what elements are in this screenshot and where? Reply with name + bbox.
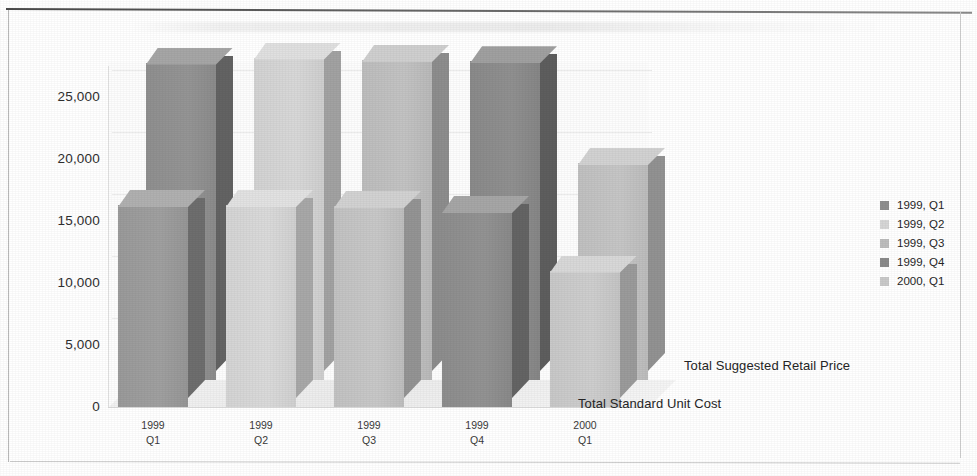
bar-front-1999-q2 xyxy=(226,205,296,407)
y-axis-tick-label: 15,000 xyxy=(14,213,100,228)
y-axis-tick-label: 10,000 xyxy=(14,275,100,290)
x-axis-label-year: 2000 xyxy=(573,419,596,431)
legend-swatch-icon xyxy=(880,201,889,210)
bar-front-face xyxy=(226,205,296,407)
legend-swatch-icon xyxy=(880,220,889,229)
chart-plot-area xyxy=(0,0,977,476)
x-axis-label-year: 1999 xyxy=(249,419,272,431)
chart-screenshot: 05,00010,00015,00020,00025,000 1999Q1199… xyxy=(0,0,977,476)
x-axis-category-labels: 1999Q11999Q21999Q31999Q42000Q1 xyxy=(0,418,977,464)
legend-item[interactable]: 1999, Q3 xyxy=(880,234,976,252)
bar-front-face xyxy=(442,211,512,407)
legend-item-label: 1999, Q2 xyxy=(897,218,944,230)
bar-side-face xyxy=(188,198,205,398)
legend-item-label: 1999, Q1 xyxy=(897,199,944,211)
y-axis-tick-label: 20,000 xyxy=(14,151,100,166)
bar-front-1999-q4 xyxy=(442,211,512,407)
x-axis-label-year: 1999 xyxy=(357,419,380,431)
x-axis-line xyxy=(108,407,653,408)
x-axis-label-quarter: Q1 xyxy=(540,433,630,448)
x-axis-label-quarter: Q2 xyxy=(216,433,306,448)
y-axis-tick-label: 0 xyxy=(14,399,100,414)
y-axis-tick-label: 5,000 xyxy=(14,337,100,352)
legend-item-label: 1999, Q4 xyxy=(897,256,944,268)
bar-front-face xyxy=(334,206,404,407)
x-axis-label-year: 1999 xyxy=(141,419,164,431)
bar-front-face xyxy=(118,205,188,407)
legend-swatch-icon xyxy=(880,239,889,248)
legend-swatch-icon xyxy=(880,277,889,286)
bar-side-face xyxy=(648,156,665,371)
x-axis-label-year: 1999 xyxy=(465,419,488,431)
bar-side-face xyxy=(404,199,421,398)
bar-side-face xyxy=(620,264,637,398)
x-axis-category-label: 1999Q3 xyxy=(324,418,414,448)
x-axis-category-label: 2000Q1 xyxy=(540,418,630,448)
x-axis-category-label: 1999Q4 xyxy=(432,418,522,448)
bar-front-face xyxy=(550,271,620,407)
x-axis-label-quarter: Q3 xyxy=(324,433,414,448)
bar-front-1999-q1 xyxy=(118,205,188,407)
x-axis-label-quarter: Q4 xyxy=(432,433,522,448)
bar-side-face xyxy=(296,198,313,398)
legend-item[interactable]: 1999, Q4 xyxy=(880,253,976,271)
zaxis-label-total-suggested-retail-price: Total Suggested Retail Price xyxy=(684,358,850,373)
chart-legend: 1999, Q11999, Q21999, Q31999, Q42000, Q1 xyxy=(880,196,976,291)
x-axis-category-label: 1999Q1 xyxy=(108,418,198,448)
x-axis-label-quarter: Q1 xyxy=(108,433,198,448)
bar-side-face xyxy=(512,204,529,398)
y-axis-tick-label: 25,000 xyxy=(14,89,100,104)
legend-item[interactable]: 1999, Q2 xyxy=(880,215,976,233)
legend-swatch-icon xyxy=(880,258,889,267)
legend-item-label: 2000, Q1 xyxy=(897,275,944,287)
legend-item-label: 1999, Q3 xyxy=(897,237,944,249)
legend-item[interactable]: 2000, Q1 xyxy=(880,272,976,290)
x-axis-category-label: 1999Q2 xyxy=(216,418,306,448)
y-axis-tick-labels: 05,00010,00015,00020,00025,000 xyxy=(14,0,100,476)
zaxis-label-total-standard-unit-cost: Total Standard Unit Cost xyxy=(578,396,721,411)
y-axis-line xyxy=(108,66,109,408)
bar-front-1999-q3 xyxy=(334,206,404,407)
bar-front-2000-q1 xyxy=(550,271,620,407)
legend-item[interactable]: 1999, Q1 xyxy=(880,196,976,214)
